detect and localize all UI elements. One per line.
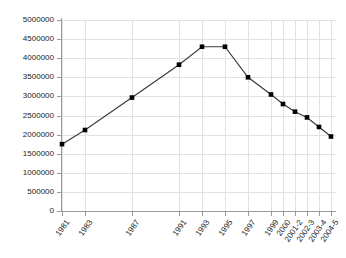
data-point-marker bbox=[305, 115, 310, 120]
data-point-marker bbox=[177, 62, 182, 67]
data-point-marker bbox=[293, 109, 298, 114]
data-point-marker bbox=[246, 75, 251, 80]
data-point-marker bbox=[60, 142, 65, 147]
data-point-marker bbox=[269, 92, 274, 97]
data-point-marker bbox=[281, 102, 286, 107]
data-point-marker bbox=[329, 134, 334, 139]
line-chart: 5000000450000040000003500000300000025000… bbox=[0, 0, 346, 258]
data-point-marker bbox=[317, 125, 322, 130]
data-point-marker bbox=[223, 44, 228, 49]
series-markers bbox=[60, 44, 334, 146]
data-series-layer bbox=[0, 0, 346, 258]
data-point-marker bbox=[83, 128, 88, 133]
data-point-marker bbox=[130, 95, 135, 100]
data-point-marker bbox=[200, 44, 205, 49]
series-line bbox=[62, 47, 331, 144]
